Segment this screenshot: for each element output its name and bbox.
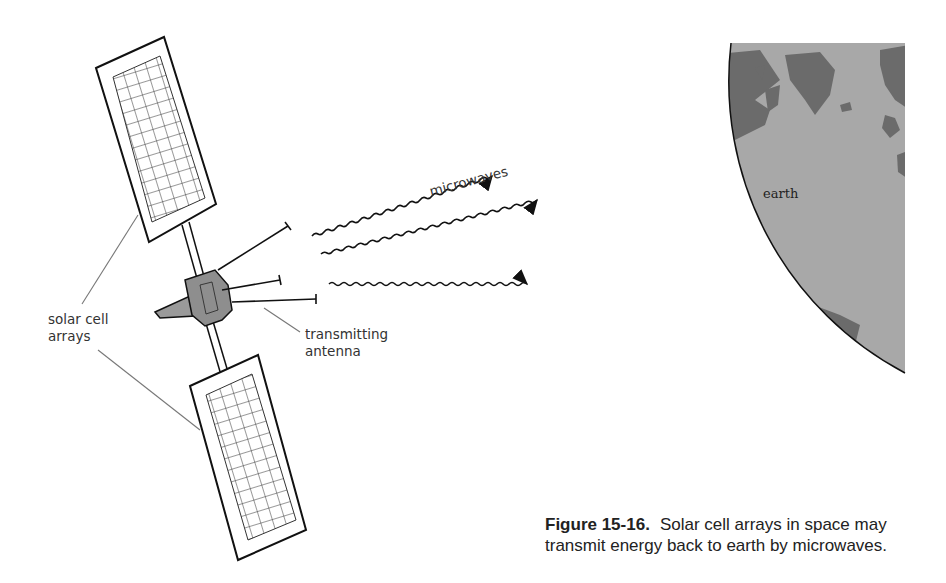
antennas [218,222,316,304]
solar-panel-top [96,37,216,242]
caption-text-1: Solar cell arrays in space may [660,515,887,534]
transmitting-antenna-label: transmitting antenna [305,326,388,360]
solar-panel-bottom [190,355,306,560]
solar-cell-arrays-label: solar cell arrays [48,311,108,345]
diagram-canvas [0,0,946,583]
satellite-body [155,270,232,326]
caption-line-2: transmit energy back to earth by microwa… [545,535,945,556]
earth-label: earth [763,186,798,201]
figure-number: Figure 15-16. [545,515,650,534]
microwave-beams [312,176,537,286]
caption-line-1: Figure 15-16.Solar cell arrays in space … [545,514,945,535]
solar-cell-label-line1: solar cell [48,311,108,328]
antenna-label-line2: antenna [305,343,388,360]
antenna-label-line1: transmitting [305,326,388,343]
earth-globe [640,40,910,380]
figure-caption: Figure 15-16.Solar cell arrays in space … [545,514,945,556]
solar-cell-label-line2: arrays [48,328,108,345]
